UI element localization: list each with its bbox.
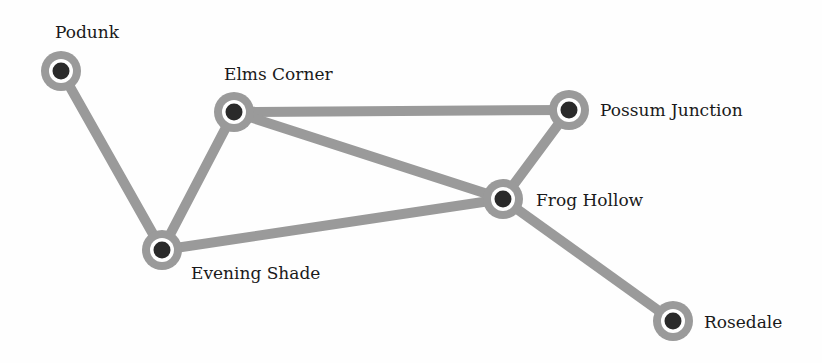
edge-frog-hollow-rosedale xyxy=(503,199,673,321)
node-label-frog-hollow: Frog Hollow xyxy=(536,192,643,209)
node-evening-shade xyxy=(142,230,182,270)
edge-elms-corner-possum-junction xyxy=(234,110,569,112)
graph-diagram: PodunkElms CornerPossum JunctionFrog Hol… xyxy=(0,0,822,363)
node-podunk xyxy=(41,51,81,91)
node-elms-corner xyxy=(214,92,254,132)
graph-canvas xyxy=(0,0,822,363)
node-label-rosedale: Rosedale xyxy=(704,314,782,331)
edge-elms-corner-frog-hollow xyxy=(234,112,503,199)
node-rosedale xyxy=(653,301,693,341)
node-label-evening-shade: Evening Shade xyxy=(191,265,320,282)
edge-podunk-evening-shade xyxy=(61,71,162,250)
edge-evening-shade-frog-hollow xyxy=(162,199,503,250)
node-label-elms-corner: Elms Corner xyxy=(224,66,333,83)
edge-evening-shade-elms-corner xyxy=(162,112,234,250)
node-frog-hollow xyxy=(483,179,523,219)
node-label-possum-junction: Possum Junction xyxy=(600,102,743,119)
node-label-podunk: Podunk xyxy=(55,24,119,41)
node-possum-junction xyxy=(549,90,589,130)
